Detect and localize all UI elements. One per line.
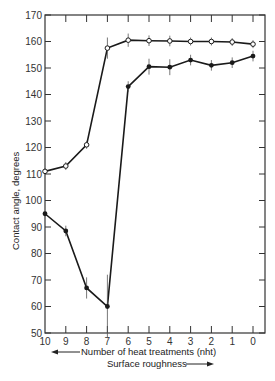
filled-circle-marker [43,211,48,216]
contact-angle-chart: 5060708090100110120130140150160170 10987… [0,0,275,381]
y-tick-label: 100 [25,195,42,206]
filled-circle-marker [126,84,131,89]
open-circle-marker [43,169,48,174]
filled-circle-marker [209,63,214,68]
y-tick-label: 70 [31,275,43,286]
open-circle-marker [230,40,235,45]
y-tick-label: 80 [31,248,43,259]
y-tick-label: 90 [31,222,43,233]
x-axis-secondary-label: Surface roughness [107,358,187,369]
y-tick-label: 60 [31,301,43,312]
x-axis-label: Number of heat treatments (nht) [81,346,216,357]
filled-circle-marker [84,286,89,291]
open-circle-marker [188,39,193,44]
x-tick-label: 0 [250,336,256,347]
x-tick-label: 10 [39,336,51,347]
open-circle-marker [209,39,214,44]
filled-circle-marker [167,65,172,70]
open-circle-marker [84,143,89,148]
x-tick-label: 1 [229,336,235,347]
filled-circle-marker [105,304,110,309]
filled-circle-marker [230,60,235,65]
open-circle-marker [168,39,173,44]
open-circle-marker [251,42,256,47]
filled-circle-marker [251,54,256,59]
right-arrow-icon [207,362,214,367]
y-tick-label: 150 [25,63,42,74]
x-tick-label: 9 [63,336,69,347]
series-filled-circles [43,51,256,339]
filled-circle-marker [63,229,68,234]
y-tick-label: 170 [25,10,42,21]
y-axis-label: Contact angle, degrees [10,152,21,250]
series-open-circles [43,34,256,174]
left-arrow-icon [51,350,58,355]
open-circle-marker [105,46,110,51]
open-circle-marker [64,164,69,169]
series-layer [43,34,256,339]
open-circle-marker [147,38,152,43]
y-tick-label: 130 [25,116,42,127]
open-circle-marker [126,38,131,43]
y-axis-ticks: 5060708090100110120130140150160170 [25,10,265,339]
series-line [45,56,253,306]
y-tick-label: 140 [25,89,42,100]
filled-circle-marker [188,58,193,63]
x-axis-label-group: Number of heat treatments (nht) Surface … [51,346,216,369]
y-tick-label: 160 [25,36,42,47]
y-tick-label: 120 [25,142,42,153]
y-tick-label: 110 [26,169,42,180]
filled-circle-marker [147,64,152,69]
